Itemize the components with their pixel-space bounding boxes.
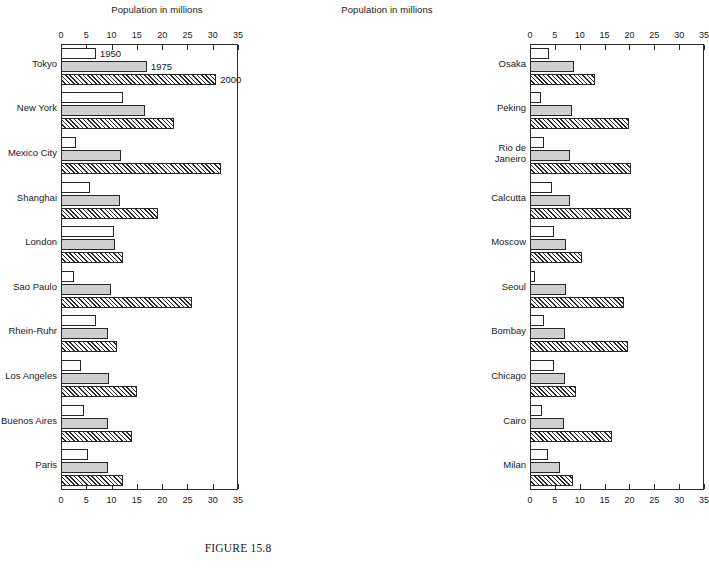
bar-2000	[61, 386, 137, 397]
bar-2000	[530, 163, 631, 174]
category-label: Tokyo	[1, 59, 57, 70]
axis-title-right: Population in millions	[238, 4, 506, 15]
bar-group: New York	[61, 92, 238, 129]
bar-2000	[530, 118, 629, 129]
x-tick-bottom-35	[704, 484, 705, 489]
bar-1950	[61, 92, 123, 103]
bar-2000	[530, 208, 631, 219]
category-label: Rio de Janeiro	[476, 143, 526, 164]
bar-1950	[61, 182, 90, 193]
x-tick-label-bottom-25: 25	[182, 495, 192, 505]
bar-1975	[61, 195, 120, 206]
bar-1975	[61, 418, 108, 429]
bar-1950	[61, 48, 96, 59]
category-label: London	[1, 237, 57, 248]
bar-1950	[530, 405, 542, 416]
bar-1950	[61, 315, 96, 326]
x-tick-label-bottom-5: 5	[84, 495, 89, 505]
bar-group: Moscow	[530, 226, 704, 263]
bar-1950	[530, 182, 552, 193]
x-tick-label-top-20: 20	[624, 30, 634, 40]
bar-group: Osaka	[530, 48, 704, 85]
axis-rule-bottom	[61, 489, 238, 490]
category-label: Sao Paulo	[1, 282, 57, 293]
bar-1975	[530, 150, 570, 161]
x-tick-label-top-30: 30	[674, 30, 684, 40]
x-tick-label-top-25: 25	[182, 30, 192, 40]
bar-group: Rhein-Ruhr	[61, 315, 238, 352]
bar-2000	[61, 431, 132, 442]
bar-1975	[61, 284, 111, 295]
bar-1950	[530, 271, 535, 282]
x-tick-label-bottom-35: 35	[699, 495, 709, 505]
axis-rule-top	[61, 44, 238, 45]
bar-1975	[530, 462, 560, 473]
category-label: Seoul	[476, 282, 526, 293]
bar-1950	[530, 360, 554, 371]
category-label: New York	[1, 103, 57, 114]
x-tick-label-bottom-10: 10	[107, 495, 117, 505]
category-label: Cairo	[476, 416, 526, 427]
x-tick-label-bottom-0: 0	[527, 495, 532, 505]
x-tick-label-top-5: 5	[552, 30, 557, 40]
x-tick-label-top-15: 15	[600, 30, 610, 40]
bar-group: Rio de Janeiro	[530, 137, 704, 174]
bar-2000	[530, 297, 624, 308]
chart-panel-right: Population in millions 00551010151520202…	[238, 0, 476, 534]
x-tick-label-bottom-15: 15	[132, 495, 142, 505]
bar-1975	[530, 239, 566, 250]
bar-1950	[61, 405, 84, 416]
bar-2000	[61, 74, 216, 85]
bar-1950	[530, 226, 554, 237]
bar-1975	[61, 61, 147, 72]
bar-1950	[61, 226, 114, 237]
axis-rule-top	[530, 44, 704, 45]
axis-title-left: Population in millions	[0, 4, 276, 15]
category-label: Moscow	[476, 237, 526, 248]
category-label: Chicago	[476, 371, 526, 382]
axis-rule-bottom	[530, 489, 704, 490]
x-tick-label-top-0: 0	[527, 30, 532, 40]
category-label: Paris	[1, 460, 57, 471]
bar-group: Bombay	[530, 315, 704, 352]
category-label: Milan	[476, 460, 526, 471]
bar-group: Chicago	[530, 360, 704, 397]
bar-1975	[61, 462, 108, 473]
bar-group: Buenos Aires	[61, 405, 238, 442]
bar-1950	[61, 360, 81, 371]
chart-panel-left: Population in millions 00551010151520202…	[0, 0, 238, 534]
bar-1975	[61, 373, 109, 384]
bar-2000	[61, 252, 123, 263]
bar-1975	[61, 239, 115, 250]
bar-group: Tokyo195019752000	[61, 48, 238, 85]
bar-1975	[530, 418, 564, 429]
bar-2000	[61, 475, 123, 486]
category-label: Buenos Aires	[1, 416, 57, 427]
bar-1975	[530, 373, 565, 384]
category-label: Osaka	[476, 59, 526, 70]
bar-2000	[530, 74, 595, 85]
bar-2000	[61, 208, 158, 219]
plot-area-left: 0055101015152020252530303535Tokyo1950197…	[61, 44, 238, 490]
bar-group: Calcutta	[530, 182, 704, 219]
bar-1950	[61, 271, 74, 282]
x-tick-top-35	[704, 45, 705, 50]
bar-2000	[61, 163, 221, 174]
bar-1975	[530, 195, 570, 206]
figure-caption: FIGURE 15.8	[0, 542, 476, 554]
bar-group: Sao Paulo	[61, 271, 238, 308]
bar-2000	[530, 431, 612, 442]
bar-1975	[530, 328, 565, 339]
bar-group: Cairo	[530, 405, 704, 442]
bar-group: Milan	[530, 449, 704, 486]
x-tick-label-bottom-5: 5	[552, 495, 557, 505]
bar-1975	[61, 328, 108, 339]
bar-group: Shanghai	[61, 182, 238, 219]
x-tick-label-top-20: 20	[157, 30, 167, 40]
bar-2000	[61, 118, 174, 129]
bar-2000	[530, 475, 573, 486]
bar-1950	[530, 315, 544, 326]
bar-group: Mexico City	[61, 137, 238, 174]
bar-1975	[61, 105, 145, 116]
series-annotation-1975: 1975	[151, 61, 172, 72]
